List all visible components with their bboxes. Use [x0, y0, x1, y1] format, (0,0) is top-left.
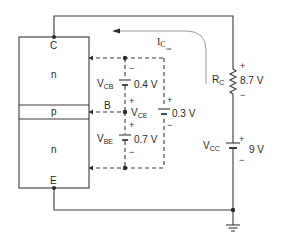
vbe-value: 0.7 V [134, 135, 157, 145]
base-layer-label: p [51, 107, 57, 117]
collector-label: C [50, 41, 57, 51]
current-sub: C [160, 40, 165, 49]
vbe-top-sign: + [129, 121, 134, 130]
vbe-sub: BE [104, 138, 113, 145]
base-label: B [104, 101, 111, 111]
rc-sub: C [219, 79, 224, 86]
node-base-dot [123, 110, 127, 114]
vce-sub: CE [138, 112, 148, 119]
rc-bottom-sign: − [240, 91, 245, 100]
vcb-symbol-label: VCB [97, 79, 113, 89]
rc-symbol-label: RC [212, 75, 224, 85]
vce-bottom-sign: − [167, 121, 172, 130]
node-collector-dot [123, 56, 127, 60]
emitter-probe-arrow-icon [89, 166, 93, 171]
vcc-sub: CC [210, 145, 220, 152]
circuit-wiring [0, 0, 281, 247]
vcc-top-sign: + [239, 135, 244, 144]
vce-symbol: V [131, 107, 138, 118]
vcb-sub: CB [104, 83, 114, 90]
vbe-bottom-sign: − [129, 148, 134, 157]
current-sub-sat: sat [166, 46, 172, 51]
vcb-symbol: V [97, 78, 104, 89]
current-arrowhead-icon [112, 29, 120, 34]
collector-layer-label: n [51, 70, 57, 80]
vce-top-sign: + [167, 96, 172, 105]
vcc-symbol-label: VCC [203, 141, 220, 151]
resistor-rc [230, 66, 236, 143]
rc-value: 8.7 V [240, 76, 263, 86]
node-emitter-dot [123, 166, 127, 170]
vcc-symbol: V [203, 140, 210, 151]
vcc-value: 9 V [249, 145, 264, 155]
vce-symbol-label: VCE [131, 108, 147, 118]
emitter-wire [54, 188, 233, 210]
vbe-symbol-label: VBE [97, 134, 113, 144]
collector-terminal-dot [52, 35, 56, 39]
vbe-symbol: V [97, 133, 104, 144]
vcb-value: 0.4 V [134, 80, 157, 90]
ground-node-dot [231, 208, 235, 212]
collector-probe-arrow-icon [89, 56, 93, 61]
emitter-label: E [50, 176, 57, 186]
emitter-terminal-dot [52, 186, 56, 190]
emitter-layer-label: n [51, 145, 57, 155]
vcb-top-sign: − [129, 64, 134, 73]
current-label: ICsat [157, 37, 171, 47]
vcb-bottom-sign: + [129, 97, 134, 106]
vcc-bottom-sign: − [239, 156, 244, 165]
vce-value: 0.3 V [172, 109, 195, 119]
transistor-saturation-diagram: C n p n E B ICsat VCB 0.4 V − + VCE 0.3 … [0, 0, 281, 247]
base-probe-arrow-icon [89, 110, 93, 115]
rc-top-sign: + [240, 62, 245, 71]
